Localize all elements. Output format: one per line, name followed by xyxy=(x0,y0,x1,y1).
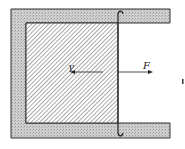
force-label: F xyxy=(143,61,150,71)
soap-film xyxy=(26,23,118,123)
edge-mark xyxy=(182,79,184,84)
gamma-label: γ xyxy=(68,62,74,72)
diagram-canvas xyxy=(0,0,185,149)
sliding-wire xyxy=(118,11,123,136)
